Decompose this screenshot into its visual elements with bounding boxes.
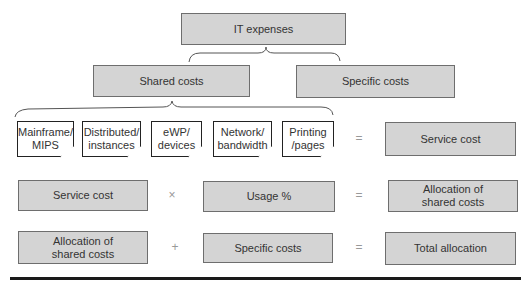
row1-equals: = — [351, 131, 367, 145]
row3-equals: = — [351, 240, 367, 254]
note-network: Network/ bandwidth — [213, 121, 272, 157]
service-cost-box: Service cost — [18, 180, 148, 211]
row2-equals: = — [351, 188, 367, 202]
row2-multiply: × — [164, 188, 180, 202]
shared-costs-box: Shared costs — [93, 65, 250, 97]
brace-it-expenses — [189, 47, 340, 62]
note-ewp-label: eWP/ devices — [158, 126, 195, 152]
usage-box: Usage % — [203, 181, 335, 212]
shared-costs-label: Shared costs — [139, 75, 203, 88]
note-distributed: Distributed/ instances — [82, 121, 141, 157]
note-distributed-label: Distributed/ instances — [84, 126, 140, 152]
total-allocation-label: Total allocation — [414, 242, 487, 255]
note-network-label: Network/ bandwidth — [217, 126, 267, 152]
specific-costs-box: Specific costs — [296, 65, 455, 98]
allocation-shared-result-box: Allocation of shared costs — [388, 180, 518, 212]
bottom-rule — [10, 277, 521, 280]
allocation-shared-result-label: Allocation of shared costs — [422, 183, 484, 209]
note-mainframe: Mainframe/ MIPS — [17, 121, 74, 157]
allocation-shared-box: Allocation of shared costs — [18, 231, 148, 264]
it-expenses-box: IT expenses — [181, 13, 346, 45]
service-cost-result-label: Service cost — [421, 133, 481, 146]
note-ewp: eWP/ devices — [151, 121, 202, 157]
service-cost-label: Service cost — [53, 189, 113, 202]
specific-costs-row-box: Specific costs — [203, 233, 333, 263]
it-expenses-label: IT expenses — [234, 23, 294, 36]
service-cost-result-box: Service cost — [385, 122, 516, 156]
specific-costs-row-label: Specific costs — [234, 242, 301, 255]
allocation-shared-label: Allocation of shared costs — [52, 235, 114, 261]
row3-plus: + — [167, 240, 183, 254]
brace-shared-costs — [15, 101, 333, 117]
specific-costs-label: Specific costs — [342, 75, 409, 88]
total-allocation-box: Total allocation — [385, 232, 516, 265]
usage-label: Usage % — [247, 190, 292, 203]
note-printing: Printing /pages — [282, 121, 334, 157]
note-mainframe-label: Mainframe/ MIPS — [18, 126, 73, 152]
note-printing-label: Printing /pages — [289, 126, 326, 152]
